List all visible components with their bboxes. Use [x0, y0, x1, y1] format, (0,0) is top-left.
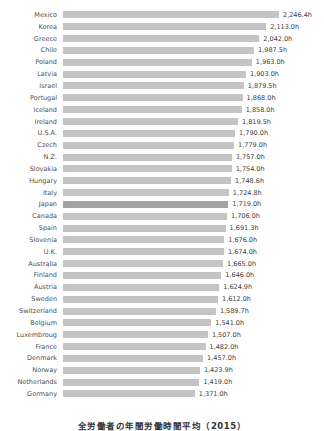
hours-bar: [63, 82, 244, 89]
chart-row: Denmark 1,457.0h: [0, 352, 324, 364]
chart-row: U.S.A. 1,790.0h: [0, 127, 324, 139]
hours-value-label: 1,963.0h: [256, 58, 285, 66]
hours-bar: [63, 11, 279, 18]
chart-row: Norway 1,423.9h: [0, 364, 324, 376]
country-label: Greece: [0, 35, 63, 43]
chart-row: Italy 1,724.8h: [0, 187, 324, 199]
hours-bar: [63, 379, 199, 386]
chart-row: France 1,482.0h: [0, 341, 324, 353]
hours-bar: [63, 331, 208, 338]
country-label: Denmark: [0, 354, 63, 362]
chart-row: Iceland 1,858.0h: [0, 104, 324, 116]
hours-value-label: 1,676.0h: [228, 236, 257, 244]
chart-row: Mexico 2,246.4h: [0, 9, 324, 21]
hours-value-label: 1,482.0h: [210, 343, 239, 351]
hours-bar: [63, 106, 242, 113]
country-label: Iceland: [0, 106, 63, 114]
chart-row: N.Z. 1,757.0h: [0, 151, 324, 163]
country-label: Mexico: [0, 11, 63, 19]
hours-value-label: 1,423.9h: [204, 366, 233, 374]
country-label: Belgium: [0, 319, 63, 327]
chart-row: U.K. 1,674.0h: [0, 246, 324, 258]
country-label: N.Z.: [0, 153, 63, 161]
country-label: Ireland: [0, 118, 63, 126]
hours-bar: [63, 165, 232, 172]
country-label: Poland: [0, 58, 63, 66]
country-label: Canada: [0, 212, 63, 220]
country-label: Switzerland: [0, 307, 63, 315]
country-label: Hungary: [0, 177, 63, 185]
country-label: U.K.: [0, 248, 63, 256]
chart-row: Poland 1,963.0h: [0, 56, 324, 68]
chart-row: Greece 2,042.0h: [0, 33, 324, 45]
hours-value-label: 1,371.0h: [199, 390, 228, 398]
chart-row: Slovakia 1,754.0h: [0, 163, 324, 175]
country-label: Sweden: [0, 295, 63, 303]
hours-bar: [63, 201, 228, 208]
country-label: Luxembroug: [0, 331, 63, 339]
hours-value-label: 1,748.6h: [235, 177, 264, 185]
country-label: Israel: [0, 82, 63, 90]
hours-bar: [63, 59, 252, 66]
hours-bar: [63, 154, 232, 161]
hours-value-label: 1,646.0h: [225, 271, 254, 279]
chart-row: Finland 1,646.0h: [0, 270, 324, 282]
hours-value-label: 2,246.4h: [283, 11, 312, 19]
country-label: Chile: [0, 46, 63, 54]
chart-row: Hungary 1,748.6h: [0, 175, 324, 187]
hours-bar: [63, 130, 235, 137]
hours-value-label: 1,691.3h: [230, 224, 259, 232]
hours-value-label: 1,724.8h: [233, 189, 262, 197]
country-label: Italy: [0, 189, 63, 197]
hours-bar: [63, 284, 219, 291]
chart-row: Australia 1,665.0h: [0, 258, 324, 270]
chart-row: Korea 2,113.0h: [0, 21, 324, 33]
hours-bar: [63, 296, 218, 303]
country-label: France: [0, 343, 63, 351]
country-label: Australia: [0, 260, 63, 268]
hours-value-label: 1,858.0h: [246, 106, 275, 114]
hours-value-label: 1,819.5h: [242, 118, 271, 126]
hours-bar: [63, 71, 246, 78]
hours-value-label: 1,868.0h: [247, 94, 276, 102]
chart-row: Canada 1,706.0h: [0, 210, 324, 222]
hours-bar: [63, 390, 195, 397]
hours-value-label: 1,624.9h: [223, 283, 252, 291]
chart-row: Portugal 1,868.0h: [0, 92, 324, 104]
hours-value-label: 1,903.0h: [250, 70, 279, 78]
hours-value-label: 1,790.0h: [239, 129, 268, 137]
chart-row: Slovenia 1,676.0h: [0, 234, 324, 246]
country-label: Slovenia: [0, 236, 63, 244]
country-label: Norway: [0, 366, 63, 374]
hours-bar: [63, 189, 229, 196]
hours-value-label: 1,706.0h: [231, 212, 260, 220]
country-label: Germany: [0, 390, 63, 398]
country-label: Portugal: [0, 94, 63, 102]
chart-row: Spain 1,691.3h: [0, 222, 324, 234]
chart-row: Chile 1,987.5h: [0, 45, 324, 57]
hours-value-label: 1,457.0h: [207, 354, 236, 362]
chart-row: Belgium 1,541.0h: [0, 317, 324, 329]
country-label: Korea: [0, 23, 63, 31]
hours-value-label: 2,042.0h: [263, 35, 292, 43]
chart-row: Sweden 1,612.0h: [0, 293, 324, 305]
hours-bar: [63, 213, 227, 220]
chart-row: Germany 1,371.0h: [0, 388, 324, 400]
chart-row: Czech 1,779.0h: [0, 139, 324, 151]
hours-value-label: 1,665.0h: [227, 260, 256, 268]
hours-value-label: 1,779.0h: [238, 141, 267, 149]
country-label: Spain: [0, 224, 63, 232]
chart-row: Netherlands 1,419.0h: [0, 376, 324, 388]
hours-bar: [63, 225, 226, 232]
country-label: Slovakia: [0, 165, 63, 173]
hours-bar: [63, 272, 221, 279]
hours-bar: [63, 23, 266, 30]
hours-value-label: 1,541.0h: [215, 319, 244, 327]
hours-value-label: 1,674.0h: [228, 248, 257, 256]
hours-bar: [63, 35, 259, 42]
hours-value-label: 1,754.0h: [236, 165, 265, 173]
country-label: Netherlands: [0, 378, 63, 386]
chart-row: Japan 1,719.0h: [0, 199, 324, 211]
hours-bar: [63, 367, 200, 374]
hours-bar: [63, 177, 231, 184]
